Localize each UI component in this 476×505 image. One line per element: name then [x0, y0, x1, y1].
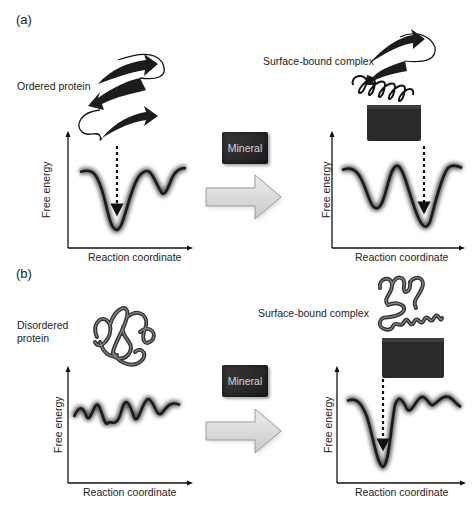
transition-arrow-icon: [203, 406, 323, 456]
x-axis-label: Reaction coordinate: [83, 486, 176, 498]
mineral-block: Mineral: [222, 132, 268, 164]
x-axis-label: Reaction coordinate: [355, 486, 448, 498]
plot-b-left: [60, 365, 195, 485]
mineral-label: Mineral: [228, 142, 262, 154]
panel-b-label: (b): [16, 266, 32, 281]
surface-bound-complex-caption-b: Surface-bound complex: [258, 307, 369, 319]
disordered-protein-caption-line1: Disordered: [17, 319, 68, 331]
y-axis-label: Free energy: [40, 161, 52, 218]
panel-a-label: (a): [16, 12, 32, 27]
mineral-label: Mineral: [228, 375, 262, 387]
plot-a-right: [330, 130, 470, 250]
transition-arrow-icon: [203, 172, 323, 222]
x-axis-label: Reaction coordinate: [88, 251, 181, 263]
mineral-block: Mineral: [222, 365, 268, 397]
disordered-protein-caption-line2: protein: [17, 332, 49, 344]
surface-bound-complex-a-illustration: [345, 25, 455, 145]
y-axis-label: Free energy: [322, 396, 334, 453]
plot-b-right: [335, 365, 475, 485]
y-axis-label: Free energy: [320, 161, 332, 218]
y-axis-label: Free energy: [52, 396, 64, 453]
plot-a-left: [60, 130, 195, 250]
x-axis-label: Reaction coordinate: [355, 251, 448, 263]
